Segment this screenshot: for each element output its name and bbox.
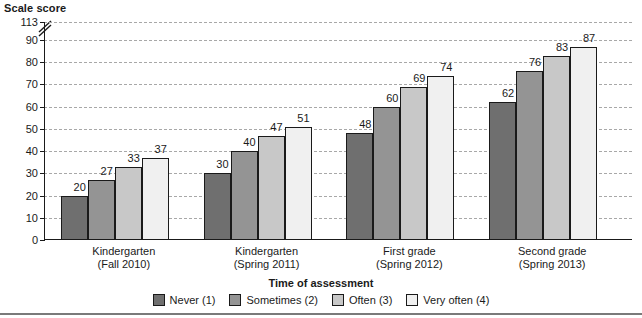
y-tick-label: 40 [6,145,38,157]
legend-item[interactable]: Sometimes (2) [229,294,318,306]
bar[interactable] [115,167,142,240]
y-tick-label: 70 [6,78,38,90]
y-tick-label: 30 [6,167,38,179]
bar[interactable] [543,56,570,240]
y-tick-mark [40,107,45,108]
bar[interactable] [489,102,516,240]
y-tick-label: 10 [6,212,38,224]
bar-value-label: 27 [74,165,113,177]
bottom-divider [0,313,642,315]
bar-value-label: 60 [359,92,398,104]
bar[interactable] [427,76,454,240]
bar[interactable] [61,196,88,240]
bar-value-label: 51 [271,112,310,124]
y-tick-mark [40,196,45,197]
y-tick-label: 90 [6,34,38,46]
legend-label: Never (1) [170,294,216,306]
y-tick-mark [40,151,45,152]
y-tick-mark [40,218,45,219]
bar[interactable] [400,87,427,240]
x-axis-title: Time of assessment [0,277,642,289]
legend: Never (1)Sometimes (2)Often (3)Very ofte… [0,294,642,306]
legend-swatch-sometimes [229,294,241,306]
y-tick-label: 80 [6,56,38,68]
y-axis-title: Scale score [4,2,66,14]
bar-group: 48606974 [346,22,472,240]
bar-value-label: 20 [47,181,86,193]
bar-value-label: 37 [128,143,167,155]
bar-chart: Scale score 2027333730404751486069746276… [0,0,642,318]
bar-group: 30404751 [204,22,330,240]
legend-item[interactable]: Very often (4) [406,294,489,306]
group-label: Second grade(Spring 2013) [459,245,642,271]
bar[interactable] [346,133,373,240]
bar[interactable] [258,136,285,240]
bar[interactable] [231,151,258,240]
bar-group: 20273337 [61,22,187,240]
bar-value-label: 48 [332,118,371,130]
legend-swatch-often [332,294,344,306]
y-tick-mark [40,240,45,241]
y-tick-mark [40,22,45,23]
plot-area: 20273337304047514860697462768387 [44,22,632,240]
bar[interactable] [88,180,115,240]
bar-value-label: 40 [217,136,256,148]
legend-item[interactable]: Often (3) [332,294,392,306]
bar[interactable] [204,173,231,240]
y-tick-label: 113 [6,16,38,28]
bar-value-label: 87 [556,32,595,44]
bar[interactable] [285,127,312,240]
bar-value-label: 30 [190,158,229,170]
y-tick-mark [40,40,45,41]
y-tick-label: 20 [6,190,38,202]
legend-label: Very often (4) [423,294,489,306]
group-label-line1: Second grade [459,245,642,258]
y-tick-label: 60 [6,101,38,113]
legend-item[interactable]: Never (1) [153,294,216,306]
legend-swatch-never [153,294,165,306]
legend-swatch-very-often [406,294,418,306]
bar-group: 62768387 [489,22,615,240]
bar[interactable] [570,47,597,240]
bar-value-label: 74 [413,61,452,73]
y-tick-label: 50 [6,123,38,135]
y-tick-mark [40,173,45,174]
legend-label: Sometimes (2) [246,294,318,306]
legend-label: Often (3) [349,294,392,306]
y-tick-mark [40,84,45,85]
bar-value-label: 69 [386,72,425,84]
bar-value-label: 62 [475,87,514,99]
bar[interactable] [373,107,400,240]
bar[interactable] [142,158,169,240]
bar-value-label: 76 [502,56,541,68]
group-label-line2: (Spring 2013) [459,258,642,271]
y-tick-mark [40,62,45,63]
bar[interactable] [516,71,543,240]
y-tick-mark [40,129,45,130]
bars-layer: 20273337304047514860697462768387 [44,22,632,240]
